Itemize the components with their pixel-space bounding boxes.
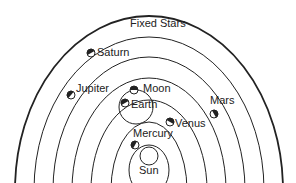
mars-icon — [210, 109, 219, 118]
mercury-label: Mercury — [133, 127, 173, 139]
earth-label: Earth — [131, 98, 157, 110]
fixed-stars-label: Fixed Stars — [130, 17, 186, 29]
saturn-orbit — [34, 37, 264, 183]
jupiter-label: Jupiter — [76, 82, 109, 94]
sun-label: Sun — [139, 164, 159, 176]
moon-label: Moon — [143, 82, 171, 94]
jupiter-icon — [65, 89, 75, 99]
mercury-icon — [130, 140, 139, 149]
mars-label: Mars — [210, 94, 235, 106]
saturn-icon — [86, 48, 95, 57]
venus-label: Venus — [175, 117, 206, 129]
labels: Fixed Stars Saturn Jupiter Moon Earth Ma… — [76, 17, 235, 176]
orbit-diagram-svg: Fixed Stars Saturn Jupiter Moon Earth Ma… — [0, 0, 296, 183]
moon-icon — [130, 86, 138, 94]
geocentric-diagram: Fixed Stars Saturn Jupiter Moon Earth Ma… — [0, 0, 296, 183]
sun-orbit — [140, 147, 158, 165]
saturn-label: Saturn — [97, 46, 129, 58]
